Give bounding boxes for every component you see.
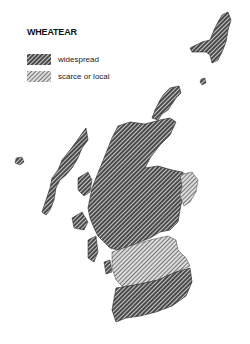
- shetland-islands: [190, 12, 231, 63]
- mainland-widespread: [88, 118, 190, 250]
- skye: [78, 172, 92, 196]
- fair-isle: [200, 78, 206, 85]
- st-kilda: [15, 157, 24, 165]
- arran: [104, 260, 112, 274]
- distribution-map: [0, 0, 250, 344]
- outer-hebrides: [42, 128, 88, 215]
- jura-islay: [88, 236, 98, 262]
- buchan-scarce: [180, 172, 198, 206]
- orkney-islands: [152, 86, 181, 120]
- mull: [72, 212, 88, 230]
